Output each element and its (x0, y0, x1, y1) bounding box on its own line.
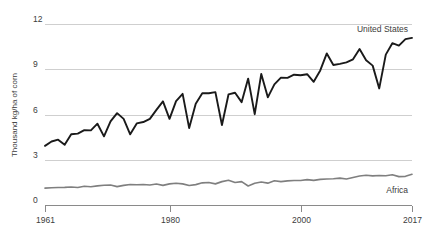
y-tick-label: 0 (33, 195, 38, 205)
y-axis-title: Thousand kg/ha of corn (10, 73, 19, 157)
y-axis-tick-labels: 129630 (33, 14, 43, 205)
y-tick-label: 9 (33, 59, 38, 69)
series-label-united-states: United States (357, 24, 408, 34)
x-tick-label: 2000 (292, 215, 311, 225)
series-label-africa: Africa (386, 185, 408, 195)
x-axis-ticks: 1961198020002017 (36, 206, 422, 226)
y-tick-label: 3 (33, 150, 38, 160)
x-tick-label: 1980 (161, 215, 180, 225)
y-tick-label: 12 (33, 14, 43, 24)
corn-yield-line-chart: 129630 Thousand kg/ha of corn 1961198020… (0, 0, 435, 241)
x-tick-label: 1961 (36, 215, 55, 225)
series-line-united-states (45, 38, 412, 146)
chart-container: 129630 Thousand kg/ha of corn 1961198020… (0, 0, 435, 241)
y-tick-label: 6 (33, 105, 38, 115)
x-tick-label: 2017 (403, 215, 422, 225)
series-line-africa (45, 174, 412, 188)
